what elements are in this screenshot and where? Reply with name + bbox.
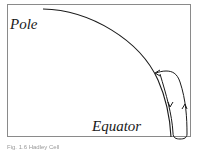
- equator-label: Equator: [92, 118, 141, 135]
- arrow-up-icon: [182, 104, 187, 109]
- pole-label: Pole: [10, 16, 38, 33]
- figure-caption: Fig. 1.6 Hadley Cell: [7, 144, 193, 150]
